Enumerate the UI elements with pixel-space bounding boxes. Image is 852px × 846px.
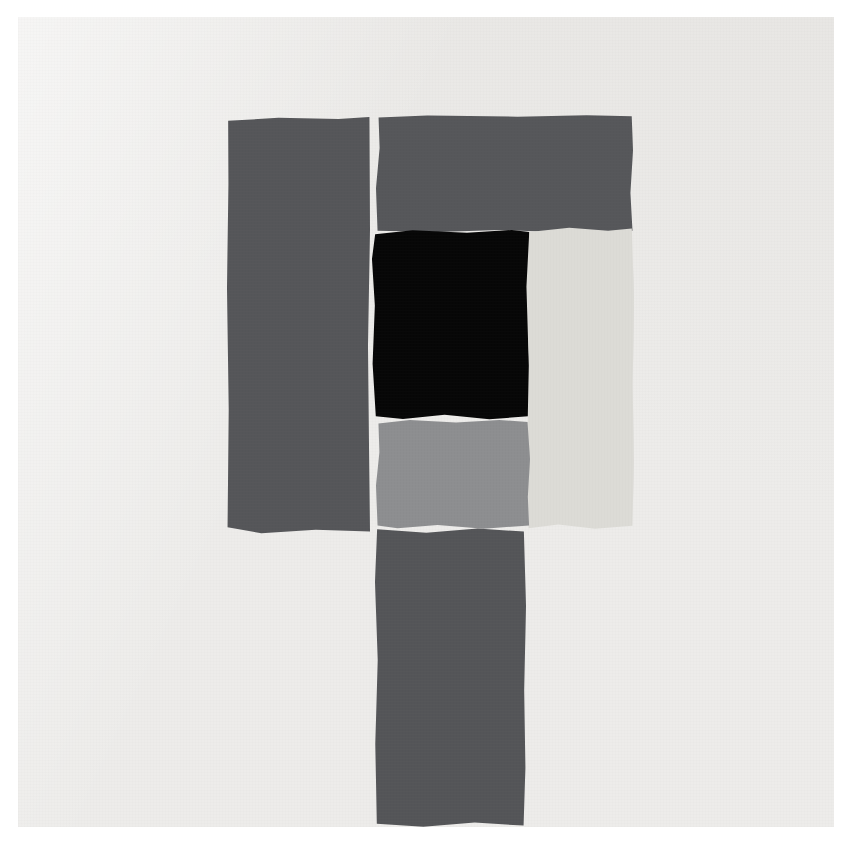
shape-left-vertical-dark-strip [227,117,370,534]
shape-bottom-vertical-dark-strip [375,528,526,828]
shape-medium-gray-rectangle [376,419,530,530]
artwork-title: Untitled (Torn Paper Collage) [0,0,1,1]
artwork-canvas: Untitled (Torn Paper Collage) [0,0,852,846]
shape-top-horizontal-dark-bar [376,115,633,233]
shape-central-black-square [371,228,531,422]
shape-right-light-gray-rectangle [526,226,634,530]
